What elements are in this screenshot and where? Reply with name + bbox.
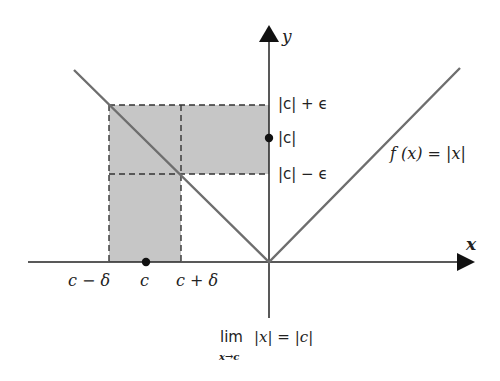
- tick-c: c: [140, 273, 149, 289]
- tick-c-minus-delta: c − δ: [68, 273, 110, 289]
- limit-expression: |x| = |c|: [254, 330, 313, 345]
- x-axis-label: x: [466, 236, 476, 253]
- y-axis-arrow-icon: [259, 25, 279, 42]
- epsilon-band-shade: [181, 105, 269, 174]
- y-axis-label: y: [282, 28, 292, 45]
- function-label: f (x) = |x|: [390, 146, 466, 162]
- tick-c-plus-epsilon: |c| + ϵ: [278, 97, 328, 112]
- delta-band-shade: [109, 105, 181, 262]
- abs-value-limit-diagram: [0, 0, 500, 381]
- x-axis-arrow-icon: [457, 253, 475, 271]
- point-c: [142, 258, 150, 266]
- point-abs-c: [265, 134, 273, 142]
- limit-subscript: x→c: [219, 351, 239, 362]
- tick-c-plus-delta: c + δ: [176, 273, 218, 289]
- limit-word: lim: [220, 330, 243, 345]
- tick-abs-c: |c|: [278, 131, 296, 146]
- tick-c-minus-epsilon: |c| − ϵ: [278, 167, 328, 182]
